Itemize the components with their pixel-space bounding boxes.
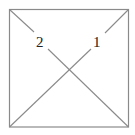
diagonal-2-lower-segment [48,49,129,127]
diagonal-2-upper-segment [10,10,35,33]
diagonal-1-lower-segment [10,49,92,127]
diagram-canvas: 2 1 [0,0,135,135]
label-1: 1 [93,34,101,50]
label-2: 2 [36,34,44,50]
diagonal-1-upper-segment [105,10,129,34]
